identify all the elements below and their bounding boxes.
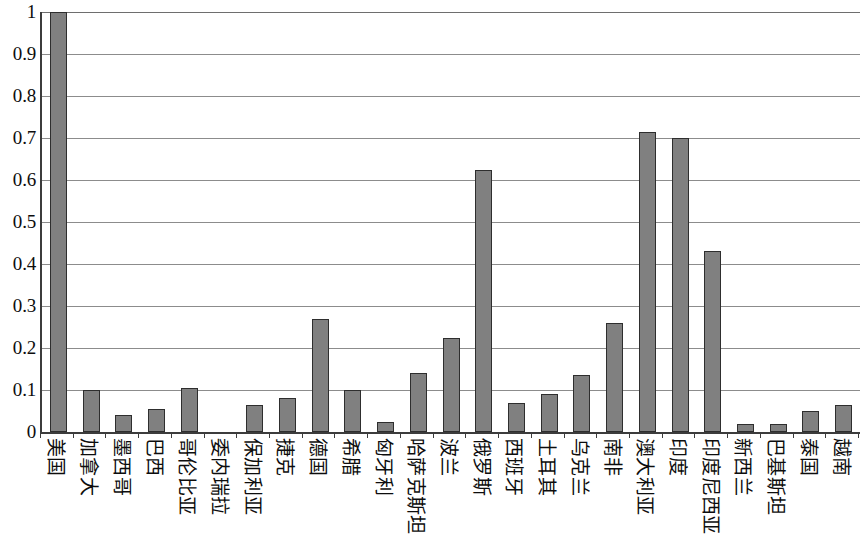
x-axis-label: 哈萨克斯坦 [401,438,427,538]
bars-series [42,12,860,432]
x-axis-label: 印度 [663,438,689,538]
x-axis-label: 匈牙利 [369,438,395,538]
x-axis-label: 西班牙 [499,438,525,538]
x-axis-label: 乌克兰 [565,438,591,538]
x-axis-label-text: 印度 [665,438,689,538]
x-axis-label-text: 德国 [305,438,329,538]
y-tick-label: 0.3 [0,296,36,315]
bar [541,394,558,432]
bar [181,388,198,432]
x-axis-label: 巴基斯坦 [761,438,787,538]
bar [50,12,67,432]
bar [83,390,100,432]
x-axis-label-text: 哈萨克斯坦 [403,438,427,538]
bar-chart: 00.10.20.30.40.50.60.70.80.91 美国加拿大墨西哥巴西… [0,0,865,538]
x-axis-label: 南非 [598,438,624,538]
bar [770,424,787,432]
x-axis-label: 哥伦比亚 [172,438,198,538]
bar [475,170,492,433]
y-tick-label: 0.7 [0,128,36,147]
bar [410,373,427,432]
bar [639,132,656,432]
x-axis-label-text: 越南 [829,438,853,538]
y-tick-label: 1 [0,2,36,21]
y-tick-label: 0.6 [0,170,36,189]
x-axis-label-text: 乌克兰 [567,438,591,538]
x-axis-label: 澳大利亚 [630,438,656,538]
x-tick [858,432,859,438]
x-axis-label: 越南 [827,438,853,538]
x-axis-label: 泰国 [794,438,820,538]
x-axis-label: 墨西哥 [107,438,133,538]
x-axis-label-text: 波兰 [436,438,460,538]
x-axis-label-text: 新西兰 [730,438,754,538]
x-axis-label-text: 俄罗斯 [469,438,493,538]
y-tick-label: 0 [0,422,36,441]
y-tick-label: 0.4 [0,254,36,273]
x-axis-label-text: 澳大利亚 [632,438,656,538]
x-axis-label: 德国 [303,438,329,538]
x-axis-label-text: 泰国 [796,438,820,538]
x-axis-label-text: 保加利亚 [240,438,264,538]
bar [443,338,460,433]
bar [344,390,361,432]
bar [377,422,394,433]
x-axis-label: 土耳其 [532,438,558,538]
bar [148,409,165,432]
x-axis-label: 印度尼西亚 [696,438,722,538]
x-axis-label: 美国 [41,438,67,538]
plot-area [40,12,860,434]
y-tick-label: 0.9 [0,44,36,63]
y-tick-label: 0.1 [0,380,36,399]
bar [508,403,525,432]
x-axis-label-text: 西班牙 [501,438,525,538]
bar [573,375,590,432]
y-axis: 00.10.20.30.40.50.60.70.80.91 [0,0,36,444]
bar [737,424,754,432]
x-axis-labels: 美国加拿大墨西哥巴西哥伦比亚委内瑞拉保加利亚捷克德国希腊匈牙利哈萨克斯坦波兰俄罗… [40,438,858,538]
bar [246,405,263,432]
x-axis-label-text: 墨西哥 [109,438,133,538]
x-axis-label-text: 美国 [43,438,67,538]
x-axis-label-text: 巴基斯坦 [763,438,787,538]
bar [802,411,819,432]
x-axis-label: 委内瑞拉 [205,438,231,538]
y-tick-label: 0.8 [0,86,36,105]
x-axis-label-text: 土耳其 [534,438,558,538]
x-axis-label: 俄罗斯 [467,438,493,538]
x-axis-label: 加拿大 [74,438,100,538]
x-axis-label-text: 匈牙利 [371,438,395,538]
x-axis-label: 希腊 [336,438,362,538]
bar [115,415,132,432]
x-axis-label-text: 哥伦比亚 [174,438,198,538]
bar [606,323,623,432]
bar [672,138,689,432]
bar [279,398,296,432]
x-axis-label: 巴西 [140,438,166,538]
x-axis-label-text: 印度尼西亚 [698,438,722,538]
bar [312,319,329,432]
x-axis-label: 保加利亚 [238,438,264,538]
x-axis-label-text: 委内瑞拉 [207,438,231,538]
x-axis-label-text: 加拿大 [76,438,100,538]
x-axis-label: 捷克 [270,438,296,538]
y-tick-label: 0.2 [0,338,36,357]
x-axis-label-text: 捷克 [272,438,296,538]
x-axis-label: 波兰 [434,438,460,538]
x-axis-label: 新西兰 [728,438,754,538]
bar [835,405,852,432]
x-axis-label-text: 南非 [600,438,624,538]
x-axis-label-text: 巴西 [142,438,166,538]
bar [704,251,721,432]
y-tick-label: 0.5 [0,212,36,231]
x-axis-label-text: 希腊 [338,438,362,538]
